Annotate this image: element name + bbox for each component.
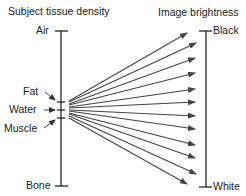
diagram-graphics — [0, 0, 246, 196]
marker-pointers — [44, 92, 55, 128]
mapping-arrows — [69, 33, 196, 184]
left-axis — [55, 31, 68, 186]
right-axis — [199, 31, 212, 187]
